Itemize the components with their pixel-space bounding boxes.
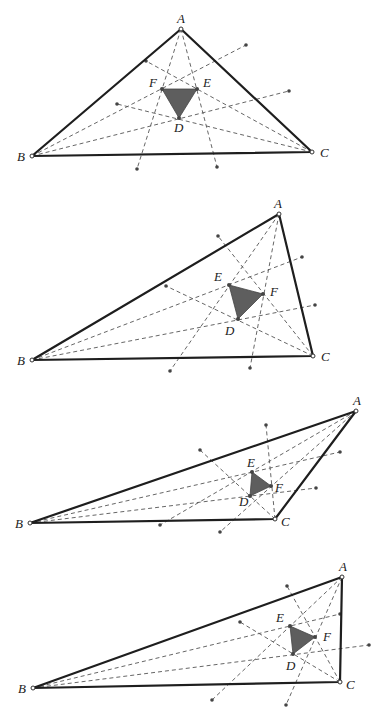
morley-equilateral-triangle [250,472,271,496]
trisector-endpoint [215,165,219,169]
label-a: A [338,559,347,574]
label-e: E [202,75,211,90]
morley-point-e [227,283,231,287]
trisector-line [30,452,340,523]
morley-point-d [236,317,240,321]
trisector-endpoint [210,698,214,702]
label-d: D [285,658,296,673]
label-c: C [320,145,329,160]
vertex-b [30,358,34,362]
label-b: B [15,516,23,531]
trisector-line [32,305,315,360]
triangle-panel-4: ABCDEF [18,559,371,707]
trisector-endpoint [313,303,317,307]
label-c: C [346,677,355,692]
trisector-endpoint [198,448,202,452]
trisector-endpoint [314,486,318,490]
label-b: B [17,353,25,368]
trisector-endpoint [367,643,371,647]
trisector-endpoint [135,167,139,171]
trisector-endpoint [285,584,289,588]
vertex-a [179,27,183,31]
triangle-panel-1: ABCDEF [17,11,329,171]
label-d: D [173,120,184,135]
vertex-a [354,409,358,413]
morley-point-f [261,292,265,296]
trisector-endpoint [216,234,220,238]
trisector-endpoint [218,530,222,534]
main-triangle [30,411,356,523]
morley-point-d [291,652,295,656]
trisector-line [32,45,246,156]
trisector-endpoint [287,89,291,93]
label-e: E [246,455,255,470]
morley-theorem-figure: ABCDEF ABCDEF ABCDEF ABCDEF [0,0,390,721]
vertex-b [31,686,35,690]
label-e: E [275,610,284,625]
trisector-endpoint [300,255,304,259]
trisector-line [117,104,312,152]
morley-point-f [269,484,273,488]
label-b: B [17,149,25,164]
label-d: D [238,494,249,509]
label-c: C [281,514,290,529]
label-b: B [18,681,26,696]
trisector-endpoint [168,369,172,373]
label-d: D [224,323,235,338]
triangle-panel-2: ABCDEF [17,196,330,373]
morley-equilateral-triangle [229,285,263,319]
triangle-panel-3: ABCDEF [15,393,361,534]
trisector-line [32,257,302,360]
label-a: A [273,196,282,211]
morley-point-f [160,87,164,91]
trisector-endpoint [164,284,168,288]
label-a: A [352,393,361,408]
trisector-endpoint [284,703,288,707]
vertex-b [30,154,34,158]
morley-point-e [250,470,254,474]
morley-point-e [288,624,292,628]
morley-point-e [195,87,199,91]
vertex-c [273,517,277,521]
vertex-b [28,521,32,525]
vertex-c [310,150,314,154]
label-f: F [322,629,332,644]
morley-point-d [248,494,252,498]
vertex-a [277,212,281,216]
trisector-endpoint [248,366,252,370]
label-f: F [269,284,279,299]
trisector-endpoint [244,43,248,47]
vertex-a [340,575,344,579]
vertex-c [311,354,315,358]
trisector-endpoint [264,423,268,427]
trisector-endpoint [158,523,162,527]
label-c: C [321,349,330,364]
label-f: F [274,480,284,495]
morley-equilateral-triangle [162,89,197,118]
trisector-endpoint [338,450,342,454]
vertex-c [338,680,342,684]
trisector-endpoint [115,102,119,106]
label-a: A [176,11,185,26]
label-e: E [213,269,222,284]
morley-point-f [313,635,317,639]
trisector-endpoint [238,620,242,624]
label-f: F [148,75,158,90]
